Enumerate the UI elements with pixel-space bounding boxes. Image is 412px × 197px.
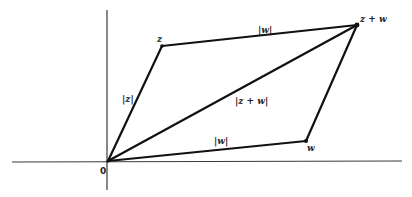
label-abs-z: |z| <box>122 94 134 105</box>
label-abs-w-top: |w| <box>258 25 272 36</box>
label-z-plus-w: z + w <box>359 14 387 24</box>
vertex-z-plus-w <box>355 23 360 28</box>
diagonal-origin-to-zw <box>108 25 357 161</box>
label-abs-z-plus-w: |z + w| <box>235 96 268 107</box>
label-abs-w-bottom: |w| <box>214 136 228 147</box>
label-z: z <box>156 34 163 44</box>
label-origin: 0 <box>100 166 106 176</box>
label-w: w <box>307 143 315 153</box>
vertex-origin <box>106 159 109 162</box>
vertex-z <box>160 44 164 48</box>
x-axis <box>12 161 402 162</box>
edge-origin-to-z <box>108 46 162 161</box>
edge-zw-to-w <box>306 25 357 141</box>
vector-addition-diagram: 0 z z + w w |z| |w| |w| |z + w| <box>0 0 412 197</box>
